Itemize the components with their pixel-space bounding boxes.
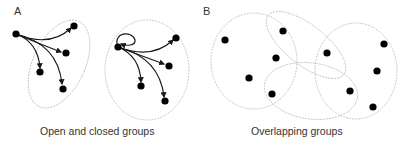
group-outline-top-diagonal — [256, 0, 356, 90]
node — [380, 40, 387, 47]
node — [165, 62, 172, 69]
source-node — [114, 43, 121, 50]
edges — [16, 28, 71, 84]
group-outline-left — [211, 13, 297, 109]
panel-b-caption: Overlapping groups — [251, 125, 343, 137]
overlapping-nodes — [221, 27, 387, 110]
node — [36, 68, 43, 75]
overlapping-groups — [211, 0, 397, 125]
panel-b-label: B — [203, 5, 210, 17]
node — [161, 97, 168, 104]
group-outline — [16, 10, 103, 117]
group-outline-bottom — [261, 57, 362, 126]
node — [323, 49, 330, 56]
panel-a-label: A — [14, 5, 21, 17]
node — [70, 22, 77, 29]
node — [59, 85, 66, 92]
node — [373, 67, 380, 74]
node — [137, 82, 144, 89]
open-group — [12, 10, 102, 117]
node — [268, 90, 275, 97]
node — [369, 103, 376, 110]
node — [346, 87, 353, 94]
node — [221, 36, 228, 43]
node — [272, 54, 279, 61]
node — [62, 49, 69, 56]
node — [172, 34, 179, 41]
closed-group — [105, 20, 189, 120]
nodes — [12, 22, 77, 92]
node — [245, 74, 252, 81]
edges — [117, 34, 173, 97]
panel-a-caption: Open and closed groups — [40, 125, 154, 137]
node — [279, 27, 286, 34]
source-node — [12, 30, 19, 37]
